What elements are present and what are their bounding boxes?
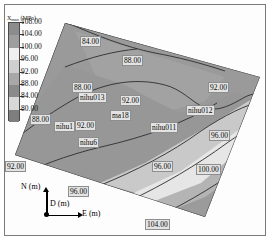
east-axis-label: E (m) — [82, 209, 100, 218]
contour-label: 92.00 — [120, 95, 141, 106]
contour-map-figure: Xmax (MPa) 108.00104.00100.0096.0092.008… — [0, 0, 272, 248]
contour-label: 92.00 — [208, 82, 229, 93]
colorbar-tick-1: 104.00 — [21, 30, 42, 38]
colorbar-tick-4: 92.00 — [21, 68, 38, 76]
legend: Xmax (MPa) 108.00104.00100.0096.0092.008… — [7, 15, 63, 123]
well-label: nihu6 — [78, 137, 99, 148]
contour-label: 88.00 — [122, 55, 143, 66]
contour-label: 92.00 — [5, 161, 26, 172]
colorbar-tick-6: 84.00 — [21, 92, 38, 100]
contour-label: 104.00 — [145, 219, 170, 230]
depth-axis-label: D (m) — [50, 199, 69, 208]
north-axis-label: N (m) — [21, 182, 40, 191]
contour-label: 84.00 — [80, 36, 101, 47]
colorbar-swatch-5 — [9, 85, 19, 97]
well-label: nihu1 — [54, 121, 75, 132]
origin-dot-icon — [44, 212, 49, 217]
colorbar-swatch-4 — [9, 73, 19, 85]
contour-label: 100.00 — [196, 164, 221, 175]
colorbar-swatch-3 — [9, 60, 19, 72]
contour-label: 92.00 — [75, 120, 96, 131]
well-label: ma18 — [110, 110, 131, 121]
colorbar-tick-7: 80.00 — [21, 105, 38, 113]
colorbar-swatch-0 — [9, 23, 19, 35]
contour-label: 96.00 — [209, 130, 230, 141]
colorbar-tick-5: 88.00 — [21, 80, 38, 88]
well-label: nihu012 — [186, 105, 215, 116]
colorbar-tick-0: 108.00 — [21, 18, 42, 26]
contour-label: 96.00 — [152, 161, 173, 172]
colorbar-swatch-1 — [9, 35, 19, 47]
colorbar — [8, 22, 20, 121]
axes-indicator: N (m) E (m) D (m) — [22, 182, 108, 228]
well-label: nihu011 — [150, 122, 178, 133]
contour-label: 88.00 — [30, 114, 51, 125]
colorbar-tick-2: 100.00 — [21, 43, 42, 51]
north-arrow-icon — [43, 187, 49, 192]
colorbar-tick-labels: 108.00104.00100.0096.0092.0088.0084.0080… — [21, 17, 63, 122]
colorbar-swatch-7 — [9, 110, 19, 122]
colorbar-tick-3: 96.00 — [21, 55, 38, 63]
colorbar-swatch-2 — [9, 48, 19, 60]
east-axis-line — [46, 215, 80, 217]
well-label: nihu013 — [78, 92, 107, 103]
colorbar-swatch-6 — [9, 97, 19, 109]
